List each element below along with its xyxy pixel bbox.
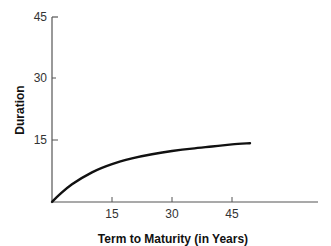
y-tick-label-15: 15 [34,133,48,147]
chart: 45 30 15 15 30 45 Term to Maturity (in Y… [0,0,331,246]
y-axis-title: Duration [13,85,27,134]
y-tick-label-45: 45 [34,10,48,24]
x-tick-label-45: 45 [225,207,239,221]
x-axis-title: Term to Maturity (in Years) [98,232,248,246]
x-tick-label-15: 15 [105,207,119,221]
x-tick-label-30: 30 [165,207,179,221]
duration-curve [52,143,250,202]
y-tick-label-30: 30 [34,71,48,85]
